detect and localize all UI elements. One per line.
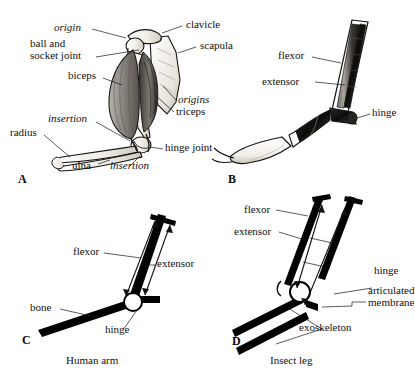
- label-hinge-b: hinge: [372, 107, 396, 119]
- panel-letter-a: A: [18, 172, 27, 187]
- label-hinge-d: hinge: [374, 265, 398, 277]
- caption-human-arm: Human arm: [66, 354, 118, 366]
- biceps-muscle: [109, 50, 139, 139]
- label-triceps-a: triceps: [176, 106, 205, 118]
- membrane-fold-d: [277, 281, 281, 296]
- label-flexor-c: flexor: [73, 246, 99, 258]
- label-extensor-d: extensor: [234, 226, 271, 238]
- label-ball-and-socket-joint-text: ball and socket joint: [30, 37, 81, 61]
- label-extensor-c: extensor: [157, 258, 194, 270]
- panel-b-drawing: [212, 20, 370, 164]
- label-bone-c: bone: [30, 302, 51, 314]
- label-exoskeleton-d: exoskeleton: [299, 322, 352, 334]
- label-flexor-d: flexor: [244, 204, 270, 216]
- exoskeleton-upper-right-d: [318, 196, 356, 280]
- label-insertion-lower-a: insertion: [110, 160, 149, 172]
- exoskeleton-lower-upper-d: [232, 296, 303, 337]
- caption-insect-leg: Insect leg: [270, 354, 312, 366]
- exoskeleton-upper-left-d: [284, 198, 323, 286]
- label-flexor-b: flexor: [278, 50, 304, 62]
- panel-letter-b: B: [228, 172, 236, 187]
- label-origins-a: origins: [178, 94, 209, 106]
- panel-letter-d: D: [232, 334, 241, 349]
- label-articulated-membrane-text: articulated membrane: [368, 284, 414, 308]
- panel-c-drawing: [38, 214, 176, 337]
- tarsus-b: [230, 137, 291, 164]
- tibia-segment-b: [296, 110, 330, 142]
- label-hinge-c: hinge: [105, 324, 129, 336]
- figure-four-panel-muscle-skeleton: origin clavicle ball and socket joint sc…: [0, 0, 415, 377]
- label-ball-and-socket-joint-a: ball and socket joint: [30, 38, 81, 61]
- condyle-b: [347, 112, 357, 124]
- label-insertion-upper-a: insertion: [48, 113, 87, 125]
- label-scapula-a: scapula: [200, 40, 233, 52]
- label-origin-a: origin: [54, 22, 81, 34]
- label-ulna-a: ulna: [72, 160, 91, 172]
- panel-letter-c: C: [22, 333, 31, 348]
- label-articulated-membrane-d: articulated membrane: [368, 284, 414, 308]
- label-clavicle-a: clavicle: [186, 19, 220, 31]
- label-radius-a: radius: [10, 127, 37, 139]
- label-biceps-a: biceps: [68, 70, 96, 82]
- label-extensor-b: extensor: [262, 76, 299, 88]
- label-hinge-joint-a: hinge joint: [165, 142, 212, 154]
- articulated-membrane-d: [306, 300, 318, 311]
